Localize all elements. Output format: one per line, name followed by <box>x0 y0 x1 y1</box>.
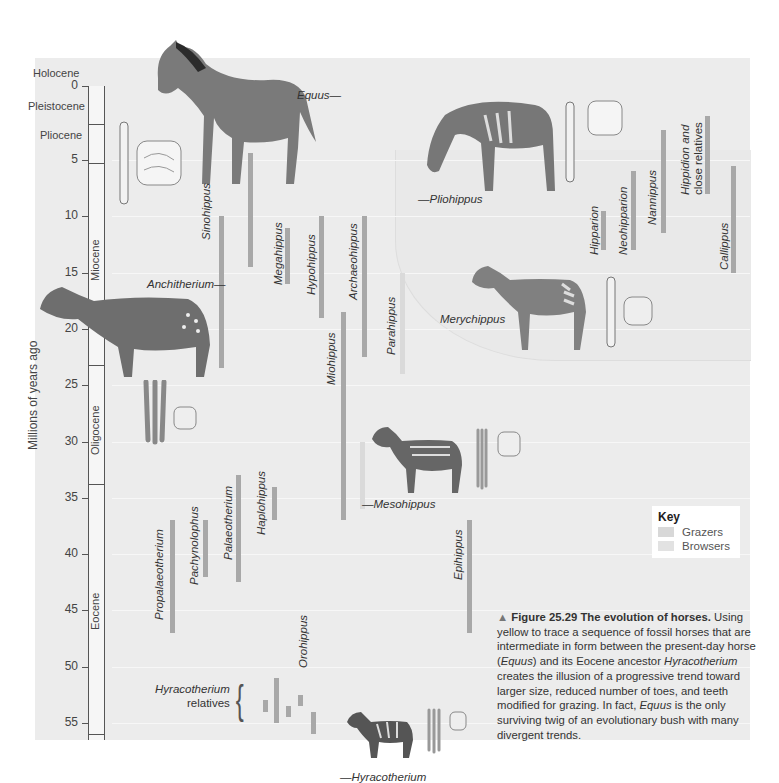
caption-italic: Equus <box>640 699 672 711</box>
axis-tick <box>82 385 88 386</box>
genus-label-propalaeotherium: Propalaeotherium <box>153 529 165 620</box>
axis-tick <box>82 667 88 668</box>
axis-tick <box>82 160 88 161</box>
range-bar-megahippus <box>285 228 290 284</box>
mesohippus-tooth <box>496 430 522 458</box>
genus-label-neohipparion: Neohipparion <box>617 187 629 255</box>
epoch-boundary <box>88 163 105 164</box>
tick-label: 15 <box>38 265 78 279</box>
hyracotherium-relatives-line1: Hyracotherium <box>155 682 230 696</box>
caption-italic: Equus <box>501 655 533 667</box>
epoch-label-oligocene: Oligocene <box>89 406 101 456</box>
caption-body: Using yellow to trace a sequence of foss… <box>497 611 756 741</box>
axis-tick <box>82 273 88 274</box>
epoch-boundary <box>88 124 105 125</box>
tick-label: 30 <box>38 434 78 448</box>
genus-label-merychippus: Merychippus <box>440 313 505 325</box>
legend-swatch-grazers <box>658 527 674 537</box>
genus-label-callippus: Callippus <box>718 223 730 270</box>
tick-label: 10 <box>38 208 78 222</box>
epoch-boundary <box>88 484 105 485</box>
axis-tick <box>82 498 88 499</box>
range-bar-hippidion-and-close-relatives <box>705 116 710 194</box>
range-bar-hypohippus <box>319 216 324 317</box>
genus-label-hipparion: Hipparion <box>588 206 600 255</box>
epoch-boundary <box>88 734 105 735</box>
gridline <box>112 385 750 386</box>
genus-label-archaeohippus: Archaeohippus <box>347 223 359 300</box>
caption-figure-number: Figure 25.29 <box>511 611 577 623</box>
range-bar-haplohippus <box>272 487 277 521</box>
genus-label-parahippus: Parahippus <box>385 297 397 355</box>
range-bar-miohippus <box>341 312 346 520</box>
range-bar-hyracotherium-relative <box>298 695 303 706</box>
anchitherium-foot-bone <box>140 380 170 445</box>
mesohippus-illustration <box>370 425 465 495</box>
tick-label: 5 <box>38 152 78 166</box>
merychippus-illustration <box>470 262 590 352</box>
axis-tick <box>82 216 88 217</box>
range-bar-neohipparion <box>631 171 636 250</box>
axis-tick <box>82 723 88 724</box>
epoch-label-pliocene: Pliocene <box>40 129 82 141</box>
hyracotherium-tooth <box>448 710 468 732</box>
curly-brace-icon: { <box>236 680 244 720</box>
genus-label-megahippus: Megahippus <box>272 222 284 285</box>
range-bar-nannippus <box>661 130 666 233</box>
legend-item-grazers: Grazers <box>658 526 734 538</box>
hyracotherium-illustration <box>345 710 415 760</box>
range-bar-propalaeotherium <box>170 520 175 633</box>
triangle-icon: ▲ <box>497 611 508 623</box>
tick-label: 40 <box>38 546 78 560</box>
equus-tooth <box>134 138 184 188</box>
genus-label-hyracotherium: —Hyracotherium <box>340 771 426 783</box>
caption-title: The evolution of horses. <box>580 611 711 623</box>
genus-label-sinohippus: Sinohippus <box>200 183 212 240</box>
range-bar-hyracotherium-relative <box>274 678 279 723</box>
axis-tick <box>82 86 88 87</box>
merychippus-foot-bone <box>602 275 620 350</box>
axis-tick <box>82 610 88 611</box>
range-bar-hyracotherium-relative <box>286 706 291 717</box>
epoch-label-eocene: Eocene <box>89 592 101 629</box>
pliohippus-illustration <box>425 95 560 195</box>
legend-label-browsers: Browsers <box>682 540 730 552</box>
genus-label-hippidion: Hippidion and <box>679 125 691 195</box>
tick-label: 45 <box>38 602 78 616</box>
epoch-label-holocene: Holocene <box>33 67 79 79</box>
mesohippus-foot-bone <box>472 428 492 490</box>
hyracotherium-relatives-line2: relatives <box>155 696 230 710</box>
range-bar-anchitherium <box>219 216 224 368</box>
anchitherium-illustration <box>38 285 218 380</box>
genus-label-anchitherium: Anchitherium— <box>147 278 226 290</box>
tick-label: 55 <box>38 715 78 729</box>
genus-label-miohippus: Miohippus <box>325 333 337 385</box>
range-bar-epihippus <box>467 520 472 633</box>
range-bar-hyracotherium-relative <box>311 712 316 735</box>
tick-label: 50 <box>38 659 78 673</box>
equus-foot-bone <box>114 118 134 208</box>
range-bar-hyracotherium-relative <box>263 700 268 711</box>
legend-item-browsers: Browsers <box>658 540 734 552</box>
genus-label-palaeotherium: Palaeotherium <box>222 486 234 560</box>
pliohippus-tooth <box>585 98 625 138</box>
range-bar-callippus <box>731 166 736 273</box>
range-bar-palaeotherium <box>236 475 241 582</box>
gridline <box>112 273 750 274</box>
range-bar-pachynolophus <box>203 520 208 576</box>
genus-label-haplohippus: Haplohippus <box>255 471 267 535</box>
epoch-label-miocene: Miocene <box>89 239 101 281</box>
legend-label-grazers: Grazers <box>682 526 723 538</box>
figure-caption: ▲ Figure 25.29 The evolution of horses. … <box>497 610 759 742</box>
genus-label-pachynolophus: Pachynolophus <box>188 506 200 585</box>
axis-tick <box>82 442 88 443</box>
tick-label: 0 <box>38 78 78 92</box>
caption-italic: Hyracotherium <box>664 655 737 667</box>
axis-tick <box>82 554 88 555</box>
range-bar-hipparion <box>601 211 606 250</box>
anchitherium-tooth <box>172 405 198 431</box>
genus-label-epihippus: Epihippus <box>452 529 464 580</box>
genus-label-mesohippus: —Mesohippus <box>362 498 436 510</box>
epoch-label-pleistocene: Pleistocene <box>28 100 85 112</box>
legend-swatch-browsers <box>658 541 674 551</box>
